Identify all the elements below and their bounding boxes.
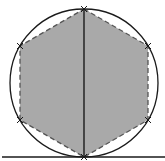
hexagon-in-circle-diagram	[0, 0, 165, 161]
diagram-svg	[0, 0, 165, 161]
